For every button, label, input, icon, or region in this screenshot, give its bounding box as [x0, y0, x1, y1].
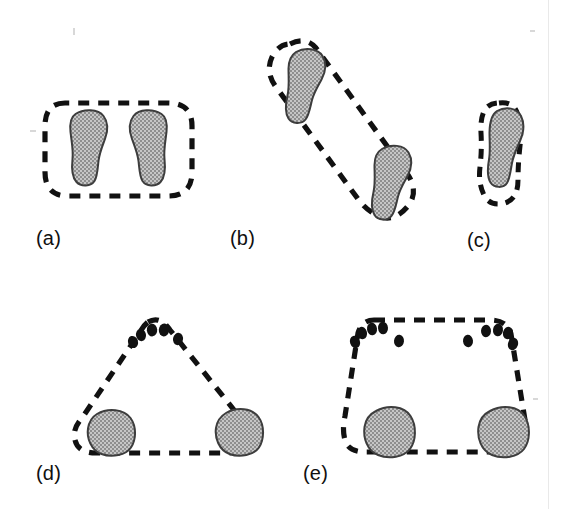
footprint-upper — [286, 49, 325, 123]
scan-artifact-line — [548, 0, 549, 509]
blob-right — [478, 407, 529, 457]
panel-label-a: (a) — [36, 228, 61, 248]
blob-left — [88, 410, 135, 456]
footprint-right — [130, 110, 167, 185]
panel-a-dashed-outline — [45, 103, 192, 196]
panel-c-group — [480, 103, 524, 204]
panel-label-c: (c) — [467, 230, 491, 250]
dot — [462, 334, 473, 348]
scan-artifact-speck — [73, 28, 75, 35]
dot — [378, 321, 389, 334]
panel-b-group — [269, 41, 413, 220]
footprint-single — [488, 108, 524, 187]
panel-label-d: (d) — [36, 463, 61, 483]
panel-a-group — [45, 103, 192, 196]
panel-e-group — [344, 320, 529, 457]
blob-left — [364, 407, 415, 457]
figure-svg — [0, 0, 563, 509]
scan-artifact-speck — [30, 130, 36, 132]
dot-cluster-apex — [126, 323, 184, 349]
blob-right — [216, 409, 263, 456]
panel-label-b: (b) — [230, 228, 255, 248]
footprint-left — [70, 110, 107, 185]
figure-container: (a) (b) (c) (d) (e) — [0, 0, 563, 509]
scan-artifact-speck — [533, 398, 538, 400]
panel-label-e: (e) — [303, 463, 328, 483]
dot — [481, 325, 491, 338]
dot — [366, 322, 378, 336]
dot-cluster-right — [462, 323, 519, 351]
dot — [393, 334, 404, 348]
scan-artifact-speck — [530, 30, 535, 32]
panel-d-group — [74, 320, 263, 456]
